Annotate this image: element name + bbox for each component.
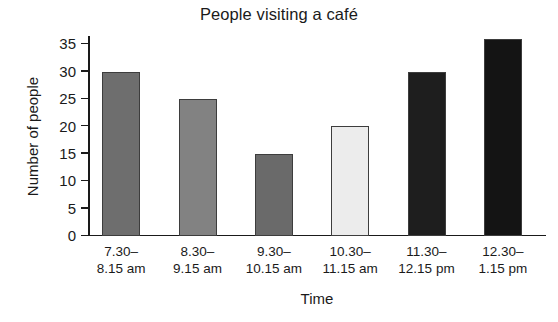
y-axis-tick-label: 20 bbox=[59, 117, 76, 134]
bar bbox=[408, 72, 446, 236]
x-axis-tick-label: 7.30–8.15 am bbox=[78, 243, 164, 277]
y-axis-tick: 15 bbox=[81, 152, 88, 154]
x-axis-tick-label: 8.30–9.15 am bbox=[155, 243, 241, 277]
y-axis-tick-label: 5 bbox=[68, 199, 76, 216]
bar bbox=[331, 126, 369, 236]
y-axis-tick-label: 35 bbox=[59, 35, 76, 52]
x-axis-tick-label-line: 11.30– bbox=[384, 243, 470, 260]
y-axis-tick: 25 bbox=[81, 98, 88, 100]
bar-series bbox=[88, 36, 546, 236]
bar bbox=[484, 39, 522, 236]
chart-title: People visiting a café bbox=[0, 5, 558, 24]
y-axis-tick: 0 bbox=[81, 235, 88, 237]
x-axis-tick-label: 11.30–12.15 pm bbox=[384, 243, 470, 277]
y-axis-tick-label: 0 bbox=[68, 227, 76, 244]
x-axis-tick-label-line: 10.30– bbox=[307, 243, 393, 260]
x-axis-tick-label: 9.30–10.15 am bbox=[231, 243, 317, 277]
y-axis-tick: 20 bbox=[81, 125, 88, 127]
bar bbox=[255, 154, 293, 236]
x-axis-tick-label-line: 8.15 am bbox=[78, 260, 164, 277]
x-axis-tick-label-line: 11.15 am bbox=[307, 260, 393, 277]
bar bbox=[102, 72, 140, 236]
y-axis-title: Number of people bbox=[24, 42, 41, 232]
x-axis-tick-label-line: 12.30– bbox=[460, 243, 546, 260]
x-axis-title: Time bbox=[88, 290, 546, 307]
x-axis-tick-label-line: 1.15 pm bbox=[460, 260, 546, 277]
bar bbox=[179, 99, 217, 236]
x-axis-tick-label-line: 9.15 am bbox=[155, 260, 241, 277]
y-axis-tick-label: 30 bbox=[59, 62, 76, 79]
x-axis-tick-label: 10.30–11.15 am bbox=[307, 243, 393, 277]
x-axis-tick-labels: 7.30–8.15 am8.30–9.15 am9.30–10.15 am10.… bbox=[88, 243, 546, 285]
y-axis-tick-label: 10 bbox=[59, 172, 76, 189]
x-axis-tick-label: 12.30–1.15 pm bbox=[460, 243, 546, 277]
y-axis-tick-label: 15 bbox=[59, 145, 76, 162]
x-axis-tick-label-line: 10.15 am bbox=[231, 260, 317, 277]
x-axis-tick-label-line: 8.30– bbox=[155, 243, 241, 260]
x-axis-tick-label-line: 7.30– bbox=[78, 243, 164, 260]
y-axis-tick: 10 bbox=[81, 180, 88, 182]
y-axis-tick: 5 bbox=[81, 207, 88, 209]
y-axis-tick: 35 bbox=[81, 43, 88, 45]
plot-area: 05101520253035 bbox=[88, 36, 546, 236]
x-axis-tick-label-line: 12.15 pm bbox=[384, 260, 470, 277]
x-axis-tick-label-line: 9.30– bbox=[231, 243, 317, 260]
y-axis-tick-label: 25 bbox=[59, 90, 76, 107]
y-axis-tick: 30 bbox=[81, 70, 88, 72]
bar-chart: People visiting a café Number of people … bbox=[0, 0, 558, 322]
